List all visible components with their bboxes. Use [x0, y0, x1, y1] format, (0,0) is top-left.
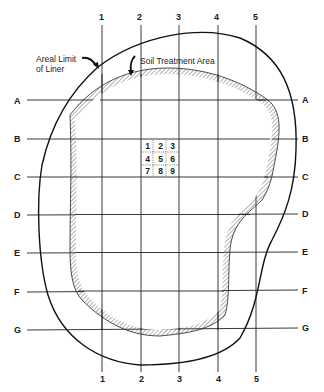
treatment-label: Soil Treatment Area	[140, 56, 215, 66]
column-label-bottom-5: 5	[254, 374, 259, 384]
liner-label-line1: Areal Limit	[36, 54, 76, 64]
grid-cell-7: 7	[141, 165, 154, 177]
column-label-top-4: 4	[214, 12, 219, 22]
liner-label: Areal Limit of Liner	[36, 54, 76, 74]
column-label-bottom-2: 2	[139, 374, 144, 384]
row-label-right-F: F	[302, 286, 308, 296]
column-label-top-5: 5	[253, 12, 258, 22]
column-label-bottom-1: 1	[100, 374, 105, 384]
liner-arrow-icon	[82, 58, 96, 66]
column-label-bottom-3: 3	[177, 374, 182, 384]
grid-cell-6: 6	[166, 153, 179, 165]
row-label-right-D: D	[302, 209, 309, 219]
grid-cell-3: 3	[166, 140, 179, 152]
column-label-top-1: 1	[99, 12, 104, 22]
row-label-right-A: A	[302, 95, 309, 105]
row-label-right-B: B	[302, 134, 309, 144]
row-label-right-E: E	[302, 247, 308, 257]
row-label-left-B: B	[14, 134, 21, 144]
row-label-right-G: G	[302, 323, 309, 333]
column-label-top-2: 2	[137, 12, 142, 22]
treatment-arrow-icon	[131, 56, 135, 72]
row-label-left-F: F	[14, 287, 20, 297]
grid-cell-1: 1	[141, 140, 154, 152]
grid-cell-4: 4	[141, 153, 154, 165]
row-label-left-A: A	[14, 96, 21, 106]
column-label-top-3: 3	[176, 12, 181, 22]
row-label-left-D: D	[14, 210, 21, 220]
grid-cell-9: 9	[166, 165, 179, 177]
row-label-right-C: C	[302, 172, 309, 182]
row-label-left-C: C	[14, 172, 21, 182]
liner-label-line2: of Liner	[36, 64, 76, 74]
row-label-left-G: G	[14, 325, 21, 335]
column-label-bottom-4: 4	[216, 374, 221, 384]
row-label-left-E: E	[14, 248, 20, 258]
